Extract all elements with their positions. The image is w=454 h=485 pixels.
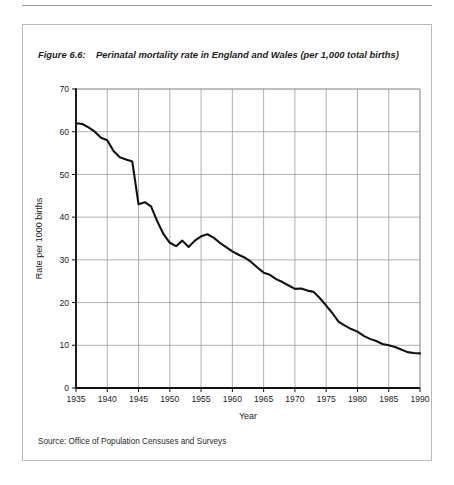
chart-gridlines <box>76 89 420 388</box>
x-tick-label: 1980 <box>348 394 367 404</box>
y-tick-label: 30 <box>59 255 69 265</box>
x-tick-labels: 1935194019451950195519601965197019751980… <box>66 394 429 404</box>
chart-axes <box>75 88 420 388</box>
x-tick-label: 1955 <box>192 394 211 404</box>
x-axis-title: Year <box>239 411 257 421</box>
chart-plot-area: 010203040506070 193519401945195019551960… <box>0 0 454 485</box>
x-tick-label: 1985 <box>379 394 398 404</box>
data-series-line <box>76 123 420 353</box>
y-tick-label: 50 <box>59 170 69 180</box>
y-tick-label: 40 <box>59 212 69 222</box>
y-tick-label: 10 <box>59 340 69 350</box>
x-tick-label: 1975 <box>317 394 336 404</box>
y-tick-labels: 010203040506070 <box>59 84 69 393</box>
series-perinatal-mortality-rate <box>76 123 420 353</box>
chart-tick-marks <box>72 89 420 392</box>
y-tick-label: 0 <box>64 383 69 393</box>
page-canvas: Figure 6.6:Perinatal mortality rate in E… <box>0 0 454 485</box>
x-tick-label: 1935 <box>66 394 85 404</box>
x-tick-label: 1960 <box>223 394 242 404</box>
y-tick-label: 60 <box>59 127 69 137</box>
line-chart: 010203040506070 193519401945195019551960… <box>0 0 454 485</box>
x-tick-label: 1940 <box>98 394 117 404</box>
x-tick-label: 1970 <box>285 394 304 404</box>
x-tick-label: 1990 <box>410 394 429 404</box>
y-tick-label: 70 <box>59 84 69 94</box>
x-tick-label: 1965 <box>254 394 273 404</box>
y-tick-label: 20 <box>59 298 69 308</box>
x-tick-label: 1950 <box>160 394 179 404</box>
y-axis-title: Rate per 1000 births <box>34 197 44 279</box>
x-tick-label: 1945 <box>129 394 148 404</box>
